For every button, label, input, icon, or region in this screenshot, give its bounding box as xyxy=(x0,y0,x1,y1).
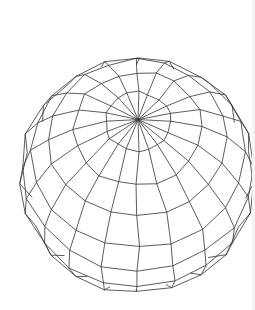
right-edge xyxy=(252,0,255,310)
mesh-edge xyxy=(190,97,200,110)
mesh-edge xyxy=(208,163,222,184)
mesh-edge xyxy=(227,137,245,152)
mesh-edge xyxy=(86,163,99,176)
mesh-edge xyxy=(208,82,232,105)
mesh-edge xyxy=(51,146,77,164)
mesh-edge xyxy=(176,175,189,202)
mesh-edge xyxy=(76,276,104,289)
mesh-edge xyxy=(200,110,223,116)
mesh-edge xyxy=(105,62,109,66)
mesh-edge xyxy=(49,140,52,164)
mesh-edge xyxy=(109,58,137,65)
mesh-edge xyxy=(73,130,78,146)
mesh-edge xyxy=(248,197,250,213)
mesh-edge xyxy=(171,121,202,126)
mesh-edge xyxy=(76,230,105,243)
mesh-edge xyxy=(222,137,227,163)
mesh-edge xyxy=(30,150,36,182)
mesh-edge xyxy=(138,113,171,119)
mesh-edge xyxy=(85,74,102,83)
mesh-edge xyxy=(43,84,69,106)
mesh-edge xyxy=(101,267,137,271)
mesh-edge xyxy=(137,215,140,246)
mesh-edge xyxy=(167,97,190,106)
mesh-edge xyxy=(49,116,53,140)
mesh-edge xyxy=(103,283,136,287)
mesh-edge xyxy=(101,243,105,267)
mesh-edge xyxy=(76,201,85,230)
mesh-edge xyxy=(138,120,168,133)
mesh-edge xyxy=(189,184,208,201)
mesh-edge xyxy=(149,145,158,150)
mesh-edge xyxy=(38,116,53,123)
mesh-edge xyxy=(66,163,86,185)
mesh-edge xyxy=(239,183,249,197)
mesh-edge xyxy=(167,202,190,213)
mesh-edge xyxy=(111,212,137,216)
mesh-edge xyxy=(76,62,105,77)
mesh-edge xyxy=(45,210,52,227)
mesh-edge xyxy=(139,149,149,151)
mesh-edge xyxy=(20,184,26,214)
mesh-edge xyxy=(79,94,85,110)
mesh-edge xyxy=(109,65,119,76)
mesh-edge xyxy=(203,208,226,230)
mesh-edge xyxy=(189,202,202,230)
mesh-edge xyxy=(223,116,227,137)
mesh-edge xyxy=(147,73,156,95)
mesh-edge xyxy=(86,139,109,163)
mesh-edge xyxy=(111,182,119,212)
mesh-edge xyxy=(137,281,175,287)
mesh-edge xyxy=(104,287,110,290)
mesh-edge xyxy=(84,94,110,106)
mesh-edge xyxy=(225,183,238,208)
mesh-edge xyxy=(23,167,27,198)
mesh-edge xyxy=(119,149,127,182)
mesh-edge xyxy=(198,126,202,145)
mesh-edge xyxy=(188,161,208,184)
mesh-edge xyxy=(136,152,139,184)
mesh-edge xyxy=(159,100,167,106)
mesh-edge xyxy=(138,120,171,122)
mesh-edge xyxy=(171,244,173,266)
mesh-edge xyxy=(109,139,118,144)
mesh-edge xyxy=(203,229,205,250)
mesh-edge xyxy=(200,110,202,127)
mesh-edge xyxy=(78,146,87,163)
mesh-edge xyxy=(168,121,171,132)
mesh-edge xyxy=(107,132,109,139)
mesh-edge xyxy=(239,152,246,183)
mesh-edge xyxy=(99,176,119,182)
mesh-edge xyxy=(189,75,210,92)
mesh-edge xyxy=(36,164,51,183)
mesh-edge xyxy=(159,81,174,100)
mesh-edge xyxy=(78,132,107,146)
mesh-edge xyxy=(138,91,139,120)
mesh-edge xyxy=(25,134,27,153)
mesh-edge xyxy=(137,73,139,91)
mesh-edge xyxy=(73,110,79,130)
mesh-edge xyxy=(137,212,167,215)
mesh-edge xyxy=(167,212,171,244)
mesh-edge xyxy=(157,184,167,212)
mesh-edge xyxy=(225,208,234,228)
mesh-edge xyxy=(69,268,104,283)
mesh-edge xyxy=(25,214,35,226)
mesh-edge xyxy=(85,201,111,212)
mesh-edge xyxy=(51,210,76,231)
mesh-edge xyxy=(84,84,101,94)
mesh-edge xyxy=(202,126,227,136)
mesh-edge xyxy=(107,120,138,122)
mesh-edge xyxy=(190,273,201,275)
mesh-edge xyxy=(101,76,119,83)
mesh-edge xyxy=(174,81,190,97)
mesh-edge xyxy=(164,133,168,141)
mesh-edge xyxy=(138,120,139,152)
mesh-edge xyxy=(169,61,201,77)
mesh-edge xyxy=(190,92,210,97)
mesh-edge xyxy=(53,110,79,116)
mesh-edge xyxy=(156,63,164,73)
mesh-edge xyxy=(119,73,137,76)
mesh-edge xyxy=(173,266,175,281)
mesh-edge xyxy=(105,58,140,62)
